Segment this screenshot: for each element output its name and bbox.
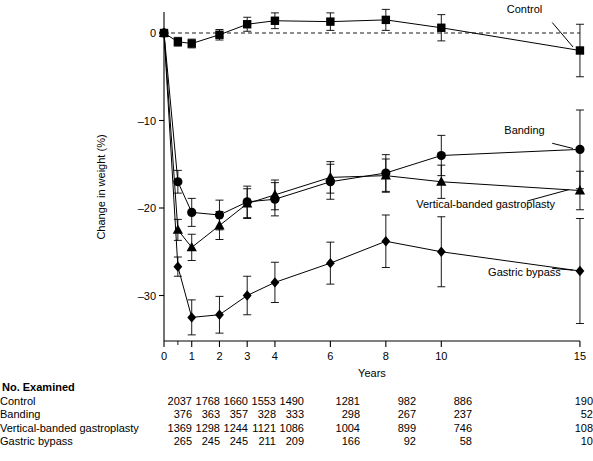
data-point-triangle [575, 185, 585, 194]
count-cell: 52 [472, 408, 593, 422]
count-cell: 1490 [276, 395, 304, 409]
x-tick-label: 6 [327, 350, 333, 362]
data-point-diamond [381, 236, 390, 246]
count-cell: 211 [248, 435, 276, 449]
annotation-leader-1 [552, 143, 573, 148]
count-cell: 237 [416, 408, 472, 422]
count-cell: 363 [192, 408, 220, 422]
annotation-leader-0 [552, 23, 573, 48]
data-point-diamond [437, 247, 446, 257]
x-tick-label: 3 [244, 350, 250, 362]
series-line-0 [164, 20, 580, 51]
count-cell: 209 [276, 435, 304, 449]
count-cell: 265 [164, 435, 192, 449]
data-point-diamond [215, 310, 224, 320]
count-cell: 1660 [220, 395, 248, 409]
series-annotation-2: Vertical-banded gastroplasty [416, 198, 555, 210]
series-line-2 [164, 33, 580, 247]
data-point-circle [575, 145, 584, 154]
count-cell: 1298 [192, 422, 220, 436]
series-annotation-3: Gastric bypass [488, 266, 561, 278]
row-label: Vertical-banded gastroplasty [0, 422, 164, 436]
count-cell: 58 [416, 435, 472, 449]
data-point-square [174, 38, 182, 46]
count-cell: 982 [360, 395, 416, 409]
table-row: Vertical-banded gastroplasty136912981244… [0, 422, 593, 436]
count-cell: 245 [192, 435, 220, 449]
data-point-square [576, 46, 584, 54]
row-label: Banding [0, 408, 164, 422]
x-tick-label: 15 [574, 350, 586, 362]
y-axis-title: Change in weight (%) [95, 134, 107, 239]
count-cell: 1768 [192, 395, 220, 409]
row-label: Gastric bypass [0, 435, 164, 449]
data-point-diamond [326, 258, 335, 268]
data-point-diamond [576, 266, 585, 276]
count-cell: 1244 [220, 422, 248, 436]
series-annotation-0: Control [507, 3, 542, 15]
row-label: Control [0, 395, 164, 409]
no-examined-table: No. Examined Control20371768166015531490… [0, 381, 593, 461]
count-cell: 886 [416, 395, 472, 409]
count-cell: 1086 [276, 422, 304, 436]
weight-change-figure: 0–10–20–3001234681015YearsChange in weig… [0, 0, 593, 461]
y-tick-label: –20 [138, 202, 156, 214]
data-point-circle [187, 208, 196, 217]
count-cell: 190 [472, 395, 593, 409]
data-point-diamond [271, 277, 280, 287]
data-point-circle [437, 151, 446, 160]
x-tick-label: 1 [189, 350, 195, 362]
count-cell: 10 [472, 435, 593, 449]
count-cell: 245 [220, 435, 248, 449]
data-point-triangle [173, 224, 183, 233]
table-row: Control203717681660155314901281982886190 [0, 395, 593, 409]
data-point-square [215, 31, 223, 39]
data-point-diamond [173, 261, 182, 271]
x-tick-label: 0 [161, 350, 167, 362]
count-cell: 1121 [248, 422, 276, 436]
series-annotation-1: Banding [504, 124, 544, 136]
table-row: Gastric bypass265245245211209166925810 [0, 435, 593, 449]
y-tick-label: –30 [138, 290, 156, 302]
count-cell: 166 [304, 435, 360, 449]
count-cell: 746 [416, 422, 472, 436]
count-cell: 333 [276, 408, 304, 422]
count-cell: 1281 [304, 395, 360, 409]
data-point-square [243, 20, 251, 28]
count-cell: 376 [164, 408, 192, 422]
count-cell: 108 [472, 422, 593, 436]
x-tick-label: 8 [383, 350, 389, 362]
y-tick-label: –10 [138, 115, 156, 127]
data-point-square [382, 16, 390, 24]
count-cell: 1553 [248, 395, 276, 409]
count-cell: 298 [304, 408, 360, 422]
table-row: Banding37636335732833329826723752 [0, 408, 593, 422]
data-point-square [188, 39, 196, 47]
data-point-diamond [187, 312, 196, 322]
x-tick-label: 10 [435, 350, 447, 362]
count-cell: 267 [360, 408, 416, 422]
count-cell: 899 [360, 422, 416, 436]
count-cell: 1004 [304, 422, 360, 436]
x-axis-title: Years [358, 367, 386, 379]
data-point-square [326, 17, 334, 25]
count-cell: 2037 [164, 395, 192, 409]
counts-grid: Control203717681660155314901281982886190… [0, 395, 593, 449]
data-point-triangle [214, 220, 224, 229]
count-cell: 92 [360, 435, 416, 449]
y-tick-label: 0 [150, 27, 156, 39]
data-point-diamond [243, 290, 252, 300]
x-tick-label: 2 [216, 350, 222, 362]
data-point-square [437, 24, 445, 32]
x-tick-label: 4 [272, 350, 278, 362]
data-point-triangle [325, 172, 335, 181]
count-cell: 357 [220, 408, 248, 422]
count-cell: 1369 [164, 422, 192, 436]
count-cell: 328 [248, 408, 276, 422]
table-heading: No. Examined [0, 381, 593, 395]
data-point-square [271, 17, 279, 25]
line-chart: 0–10–20–3001234681015YearsChange in weig… [0, 0, 593, 385]
